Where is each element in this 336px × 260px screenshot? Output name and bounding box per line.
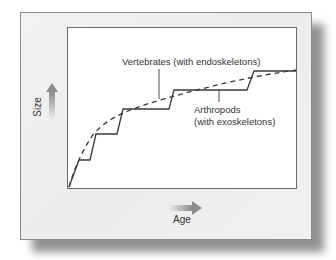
arthropods-curve (69, 71, 296, 187)
x-axis-label: Age (173, 214, 191, 226)
growth-chart (0, 0, 336, 260)
size-arrow-icon (46, 83, 58, 120)
arthropods-label-line1: Arthropods (194, 104, 275, 116)
arthropods-label-line2: (with exoskeletons) (194, 116, 275, 128)
arthropods-label: Arthropods (with exoskeletons) (194, 104, 275, 128)
age-arrow-icon (168, 201, 202, 215)
y-axis-label: Size (32, 95, 44, 119)
vertebrates-label: Vertebrates (with endoskeletons) (122, 56, 260, 68)
vertebrates-curve (69, 70, 296, 187)
